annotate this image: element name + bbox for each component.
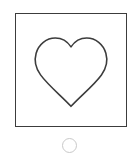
selector-circle[interactable]: Select shape xyxy=(62,138,77,153)
selector-label: Select shape xyxy=(63,139,64,140)
canvas-root: Heart Select shape xyxy=(0,0,139,162)
selector-row: Select shape xyxy=(0,131,139,159)
heart-outline xyxy=(35,38,107,106)
shape-frame[interactable]: Heart xyxy=(15,13,127,127)
heart-icon xyxy=(16,14,126,126)
